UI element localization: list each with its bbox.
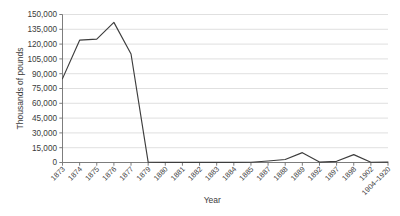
y-tick-label: 30,000 [32,129,57,138]
x-tick-label: 1883 [203,165,221,183]
x-tick-label: 1897 [323,165,341,183]
y-tick-label: 150,000 [27,10,57,19]
y-tick-label: 15,000 [32,144,57,153]
x-axis-title: Year [204,195,221,205]
x-tick-label: 1885 [237,165,255,183]
x-tick-label: 1877 [117,165,135,183]
x-tick-label: 1898 [340,165,358,183]
y-tick-label: 45,000 [32,114,57,123]
x-tick-label: 1882 [186,165,204,183]
y-tick-label: 0 [52,158,57,167]
y-tick-label: 120,000 [27,40,57,49]
x-tick-label: 1876 [100,165,118,183]
y-tick-label: 60,000 [32,99,57,108]
x-tick-label: 1879 [135,165,153,183]
x-tick-label: 1875 [83,165,101,183]
x-tick-label: 1880 [152,165,170,183]
data-series-line [63,22,389,162]
line-chart: 015,00030,00045,00060,00075,00090,000105… [0,0,400,216]
x-tick-label: 1884 [220,165,238,183]
x-tick-label: 1889 [289,165,307,183]
x-tick-label: 1892 [306,165,324,183]
y-tick-label: 75,000 [32,84,57,93]
x-tick-label: 1888 [272,165,290,183]
x-tick-label: 1874 [66,165,84,183]
x-tick-label: 1887 [254,165,272,183]
y-tick-label: 90,000 [32,70,57,79]
y-tick-label: 135,000 [27,25,57,34]
chart-canvas: 015,00030,00045,00060,00075,00090,000105… [0,0,400,216]
x-tick-label: 1881 [169,165,187,183]
y-axis-title: Thousands of pounds [15,48,25,130]
y-tick-label: 105,000 [27,55,57,64]
